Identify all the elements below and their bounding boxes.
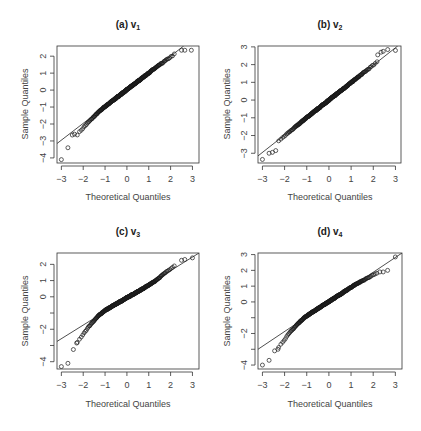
x-axis-label: Theoretical Quantiles xyxy=(85,399,171,409)
x-tick-label: 3 xyxy=(190,380,195,390)
y-axis-label: Sample Quantiles xyxy=(222,275,232,347)
y-tick-label: −2 xyxy=(38,324,48,334)
y-tick-label: −2 xyxy=(239,130,249,140)
x-axis-label: Theoretical Quantiles xyxy=(287,399,373,409)
x-tick-label: 3 xyxy=(393,380,398,390)
y-tick-label: −1 xyxy=(38,102,48,112)
qq-point-outlier xyxy=(71,348,75,352)
qq-point-outlier xyxy=(386,48,390,52)
plot-frame xyxy=(57,253,199,369)
y-tick-label: −2 xyxy=(239,328,249,338)
x-tick-label: 1 xyxy=(146,174,151,184)
x-tick-label: 0 xyxy=(326,174,331,184)
data-points xyxy=(260,255,397,367)
y-axis-label: Sample Quantiles xyxy=(20,68,30,140)
y-axis: −4−20123 xyxy=(239,252,255,370)
qq-point-outlier xyxy=(386,268,390,272)
y-tick-label: −2 xyxy=(38,119,48,129)
y-tick-label: −4 xyxy=(239,360,249,370)
y-tick-label: 3 xyxy=(239,44,249,49)
data-points xyxy=(260,48,397,162)
qq-plot-figure: (a) v1−3−2−10123−4−3−2−1012Theoretical Q… xyxy=(0,0,421,431)
x-tick-label: −2 xyxy=(78,174,88,184)
x-axis: −3−2−10123 xyxy=(257,372,398,390)
qq-point-outlier xyxy=(189,48,193,52)
x-tick-label: 2 xyxy=(168,380,173,390)
y-axis: −4−2012 xyxy=(38,262,54,367)
y-tick-label: −3 xyxy=(239,148,249,158)
x-tick-label: −1 xyxy=(302,380,312,390)
x-tick-label: −2 xyxy=(279,380,289,390)
x-tick-label: −3 xyxy=(257,380,267,390)
panel-title: (d) v4 xyxy=(317,226,342,238)
panel-title: (c) v3 xyxy=(116,226,141,238)
y-tick-label: 1 xyxy=(38,278,48,283)
y-axis-label: Sample Quantiles xyxy=(222,68,232,140)
x-axis: −3−2−10123 xyxy=(56,372,195,390)
x-tick-label: 1 xyxy=(349,174,354,184)
qq-point-outlier xyxy=(260,363,264,367)
reference-line xyxy=(57,253,199,341)
panel-d: (d) v4−3−2−10123−4−20123Theoretical Quan… xyxy=(222,226,402,409)
panel-a: (a) v1−3−2−10123−4−3−2−1012Theoretical Q… xyxy=(20,19,199,202)
x-tick-label: 3 xyxy=(393,174,398,184)
x-tick-label: −1 xyxy=(100,380,110,390)
y-tick-label: 2 xyxy=(239,62,249,67)
plot-frame xyxy=(258,253,402,369)
x-axis: −3−2−10123 xyxy=(257,166,398,184)
y-tick-label: 2 xyxy=(38,54,48,59)
y-tick-label: −1 xyxy=(239,113,249,123)
y-tick-label: 0 xyxy=(239,299,249,304)
qq-point-outlier xyxy=(260,157,264,161)
reference-line xyxy=(258,46,398,156)
reference-line xyxy=(57,46,184,144)
x-tick-label: 1 xyxy=(146,380,151,390)
y-tick-label: 1 xyxy=(239,80,249,85)
x-tick-label: 0 xyxy=(124,380,129,390)
data-points xyxy=(59,256,194,369)
y-tick-label: 0 xyxy=(38,294,48,299)
x-tick-label: 1 xyxy=(349,380,354,390)
panel-title: (a) v1 xyxy=(116,19,141,31)
x-tick-label: 2 xyxy=(168,174,173,184)
y-tick-label: −4 xyxy=(38,153,48,163)
x-tick-label: −1 xyxy=(302,174,312,184)
x-axis-label: Theoretical Quantiles xyxy=(287,192,373,202)
qq-point-outlier xyxy=(274,149,278,153)
panel-title: (b) v2 xyxy=(317,19,342,31)
x-tick-label: −3 xyxy=(56,174,66,184)
x-tick-label: 0 xyxy=(124,174,129,184)
plot-frame xyxy=(258,46,401,163)
x-tick-label: 2 xyxy=(371,380,376,390)
x-tick-label: −3 xyxy=(257,174,267,184)
x-tick-label: −2 xyxy=(279,174,289,184)
y-tick-label: 1 xyxy=(239,284,249,289)
y-tick-label: −4 xyxy=(38,357,48,367)
panel-b: (b) v2−3−2−10123−3−2−10123Theoretical Qu… xyxy=(222,19,401,202)
plot-frame xyxy=(57,46,199,163)
y-tick-label: 1 xyxy=(38,71,48,76)
x-tick-label: −1 xyxy=(100,174,110,184)
x-tick-label: 3 xyxy=(190,174,195,184)
x-tick-label: 0 xyxy=(326,380,331,390)
x-axis: −3−2−10123 xyxy=(56,166,195,184)
panel-c: (c) v3−3−2−10123−4−2012Theoretical Quant… xyxy=(20,226,199,409)
qq-point-outlier xyxy=(66,146,70,150)
y-axis-label: Sample Quantiles xyxy=(20,275,30,347)
x-tick-label: 2 xyxy=(371,174,376,184)
y-tick-label: 3 xyxy=(239,252,249,257)
x-tick-label: −3 xyxy=(56,380,66,390)
x-axis-label: Theoretical Quantiles xyxy=(85,192,171,202)
y-tick-label: 0 xyxy=(239,98,249,103)
y-tick-label: 2 xyxy=(239,268,249,273)
y-tick-label: −3 xyxy=(38,136,48,146)
y-axis: −4−3−2−1012 xyxy=(38,54,54,163)
reference-line xyxy=(258,253,402,349)
y-tick-label: 0 xyxy=(38,88,48,93)
qq-point-outlier xyxy=(66,361,70,365)
data-points xyxy=(59,48,193,161)
x-tick-label: −2 xyxy=(78,380,88,390)
qq-point-outlier xyxy=(59,158,63,162)
y-tick-label: 2 xyxy=(38,262,48,267)
y-axis: −3−2−10123 xyxy=(239,44,255,158)
